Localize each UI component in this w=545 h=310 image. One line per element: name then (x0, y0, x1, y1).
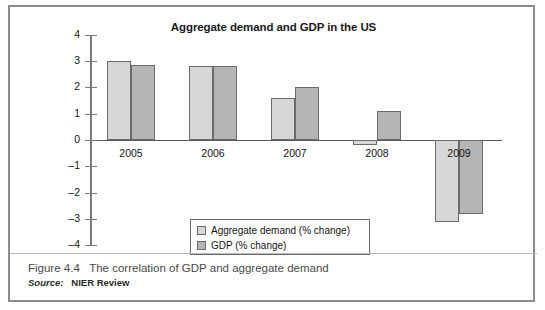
figure-caption: Figure 4.4 The correlation of GDP and ag… (28, 261, 537, 275)
y-axis-tick (85, 35, 97, 36)
figure-source-value: NIER Review (71, 277, 129, 288)
figure-caption-text: The correlation of GDP and aggregate dem… (89, 262, 329, 274)
y-axis-label: 4 (46, 29, 80, 40)
y-axis-label: –1 (46, 160, 80, 171)
bar-2005-gdp (131, 65, 155, 140)
y-axis-tick (85, 219, 97, 220)
bar-2007-aggregate-demand (271, 98, 295, 140)
y-axis-tick (85, 193, 97, 194)
plot-area: 43210–1–2–3–420052006200720082009 (10, 7, 537, 252)
y-axis-label: –4 (46, 239, 80, 250)
y-axis-label: 3 (46, 55, 80, 66)
bar-2006-gdp (213, 66, 237, 140)
y-axis-tick (85, 166, 97, 167)
chart-legend: Aggregate demand (% change) GDP (% chang… (190, 219, 370, 255)
legend-swatch-icon-aggregate-demand (197, 226, 206, 235)
legend-label-gdp: GDP (% change) (211, 240, 286, 251)
figure-caption-label: Figure 4.4 (28, 262, 80, 274)
x-axis-label-2006: 2006 (183, 148, 243, 159)
legend-item-aggregate-demand: Aggregate demand (% change) (197, 223, 364, 238)
y-axis-label: –2 (46, 187, 80, 198)
bar-2007-gdp (295, 87, 319, 140)
bar-2006-aggregate-demand (189, 66, 213, 140)
bar-2008-gdp (377, 111, 401, 140)
x-axis-label-2005: 2005 (101, 148, 161, 159)
y-axis-tick (85, 61, 97, 62)
figure-frame: Aggregate demand and GDP in the US 43210… (8, 5, 535, 302)
y-axis-tick (85, 140, 97, 141)
bar-2008-aggregate-demand (353, 140, 377, 145)
figure-source-label: Source: (28, 277, 63, 288)
chart-area: Aggregate demand and GDP in the US 43210… (10, 7, 537, 252)
y-axis-tick (85, 245, 97, 246)
legend-swatch-icon-gdp (197, 241, 206, 250)
y-axis-tick (85, 114, 97, 115)
figure-source: Source: NIER Review (28, 277, 537, 288)
y-axis-tick (85, 87, 97, 88)
y-axis-label: –3 (46, 213, 80, 224)
y-axis-label: 1 (46, 108, 80, 119)
figure-caption-block: Figure 4.4 The correlation of GDP and ag… (10, 253, 537, 300)
legend-item-gdp: GDP (% change) (197, 238, 364, 253)
x-axis-label-2008: 2008 (347, 148, 407, 159)
x-axis-label-2009: 2009 (429, 148, 489, 159)
y-axis-label: 2 (46, 81, 80, 92)
bar-2005-aggregate-demand (107, 61, 131, 140)
y-axis-label: 0 (46, 134, 80, 145)
legend-label-aggregate-demand: Aggregate demand (% change) (211, 225, 350, 236)
x-axis-label-2007: 2007 (265, 148, 325, 159)
